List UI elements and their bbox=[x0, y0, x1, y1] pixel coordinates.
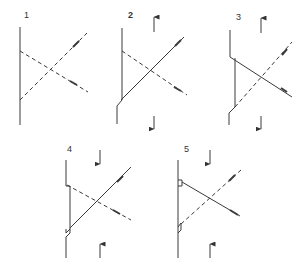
arrow-mark bbox=[230, 210, 238, 215]
panel-4 bbox=[66, 150, 131, 258]
panel-5 bbox=[178, 150, 241, 258]
arrow-mark bbox=[117, 176, 123, 182]
panel-2 bbox=[117, 17, 187, 129]
panel-2-label: 2 bbox=[128, 11, 133, 20]
arrow-mark bbox=[175, 40, 181, 46]
arrow-mark bbox=[70, 81, 77, 85]
arrow-mark bbox=[113, 210, 120, 214]
panel-4-label: 4 bbox=[67, 145, 72, 154]
panel-1-label: 1 bbox=[24, 11, 29, 20]
solid-line-ascending bbox=[121, 37, 184, 100]
wall-tab-top bbox=[178, 180, 182, 186]
dashed-line-descending bbox=[67, 185, 131, 220]
wall-top bbox=[66, 160, 70, 186]
wall-bottom bbox=[66, 229, 70, 258]
panel-3-label: 3 bbox=[236, 13, 241, 22]
diagram-canvas: 1 2 3 4 5 bbox=[0, 0, 308, 268]
arrow-mark bbox=[73, 41, 79, 47]
wall-bottom bbox=[229, 107, 235, 125]
panel-5-label: 5 bbox=[184, 145, 189, 154]
dashed-line-descending bbox=[20, 51, 88, 92]
panel-1 bbox=[20, 27, 88, 125]
wall-line bbox=[117, 28, 122, 124]
arrow-mark bbox=[174, 87, 181, 91]
arrow-mark bbox=[229, 175, 235, 181]
panel-3 bbox=[229, 18, 292, 129]
solid-line-descending bbox=[230, 57, 292, 97]
